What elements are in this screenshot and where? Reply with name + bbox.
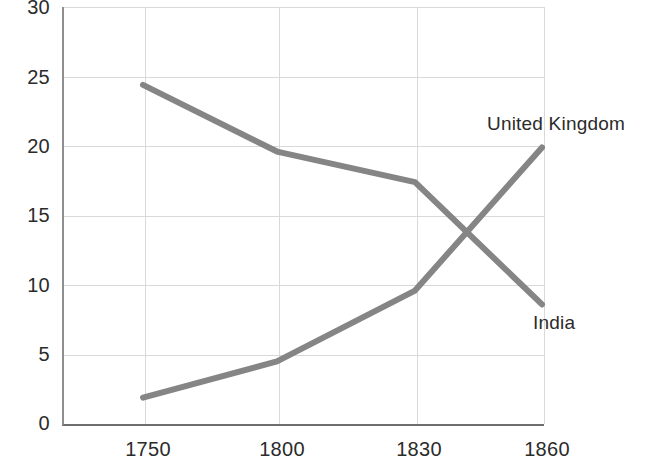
x-tick-label: 1860 [524, 438, 570, 461]
line-chart: 30 25 20 15 10 5 0 1750 1800 1830 1860 I… [0, 0, 645, 473]
x-tick-label: 1830 [396, 438, 442, 461]
x-tick-label: 1750 [125, 438, 171, 461]
x-tick-label: 1800 [259, 438, 305, 461]
series-label-india: India [533, 312, 575, 334]
x-axis: 1750 1800 1830 1860 [0, 0, 645, 473]
series-label-united-kingdom: United Kingdom [487, 113, 625, 135]
